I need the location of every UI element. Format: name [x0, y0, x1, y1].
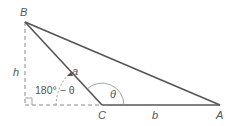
vertex-label-C: C: [98, 109, 106, 121]
label-b: b: [152, 109, 158, 121]
right-angle-marker: [25, 98, 32, 105]
label-h: h: [13, 66, 19, 78]
triangle-diagram: B C A h a b θ 180° − θ: [0, 0, 233, 126]
label-supplement: 180° − θ: [35, 84, 75, 96]
vertex-label-B: B: [20, 6, 27, 18]
label-a: a: [72, 65, 78, 77]
label-theta: θ: [110, 88, 116, 100]
vertex-label-A: A: [215, 109, 223, 121]
